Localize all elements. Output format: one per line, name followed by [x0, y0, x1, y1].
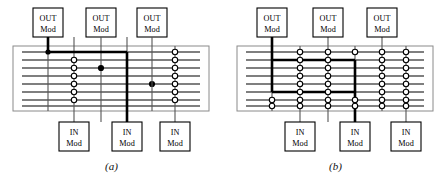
in-module-3[interactable]: IN Mod	[391, 122, 421, 151]
crosspoint-open-c4-r7[interactable]	[352, 97, 357, 102]
crosspoint-open-c5-r4[interactable]	[172, 73, 177, 78]
crosspoint-open-c2-r1[interactable]	[297, 49, 302, 54]
in-module-2[interactable]: IN Mod	[112, 122, 142, 151]
crosspoint-open-c5-r7[interactable]	[379, 97, 384, 102]
crosspoint-open-c6-r6[interactable]	[403, 89, 408, 94]
out-module-3[interactable]: OUT Mod	[367, 8, 397, 37]
out-module-3[interactable]: OUT Mod	[137, 8, 167, 37]
crosspoints-col-5-open	[379, 49, 384, 108]
in-module-3-label-top: IN	[171, 128, 180, 137]
crosspoint-open-c2-r5[interactable]	[297, 81, 302, 86]
crosspoint-open-c5-r2[interactable]	[379, 57, 384, 62]
panel-a-canvas: OUT Mod OUT Mod OUT Mod	[0, 0, 223, 176]
in-module-2[interactable]: IN Mod	[340, 122, 370, 151]
out-module-2[interactable]: OUT Mod	[313, 8, 343, 37]
crosspoint-open-c3-r8[interactable]	[325, 103, 330, 108]
crosspoint-open-c4-r1[interactable]	[352, 49, 357, 54]
in-module-1[interactable]: IN Mod	[59, 122, 89, 151]
crosspoint-open-c5-r8[interactable]	[379, 103, 384, 108]
crosspoint-open-c2-r7[interactable]	[297, 97, 302, 102]
crosspoint-open-c5-r2[interactable]	[172, 57, 177, 62]
in-module-2-label-bottom: Mod	[119, 139, 134, 148]
crosspoint-open-c6-r7[interactable]	[403, 97, 408, 102]
in-module-3-label-top: IN	[402, 128, 411, 137]
out-module-1-label-bottom: Mod	[264, 25, 279, 34]
out-module-1[interactable]: OUT Mod	[257, 8, 287, 37]
crosspoint-open-c5-r3[interactable]	[379, 65, 384, 70]
crosspoint-open-c5-r7[interactable]	[172, 97, 177, 102]
crosspoint-open-c2-r3[interactable]	[71, 65, 76, 70]
crosspoint-open-c2-r4[interactable]	[297, 73, 302, 78]
crosspoint-open-c6-r1[interactable]	[403, 49, 408, 54]
in-module-1-label-top: IN	[296, 128, 305, 137]
in-module-3-label-bottom: Mod	[398, 139, 413, 148]
out-module-1-label-top: OUT	[40, 14, 57, 23]
crosspoint-open-c3-r6[interactable]	[325, 89, 330, 94]
crosspoint-open-c5-r1[interactable]	[172, 49, 177, 54]
crosspoint-open-c3-r2[interactable]	[325, 57, 330, 62]
out-module-1-label-bottom: Mod	[40, 25, 55, 34]
crosspoint-open-c6-r2[interactable]	[403, 57, 408, 62]
crosspoint-open-c5-r4[interactable]	[379, 73, 384, 78]
crosspoints-col-5-open	[172, 49, 177, 102]
crosspoint-open-c2-r2[interactable]	[297, 57, 302, 62]
panel-b-canvas: OUT Mod OUT Mod OUT Mod IN	[224, 0, 447, 176]
out-module-2-label-top: OUT	[320, 14, 337, 23]
crosspoint-open-c6-r4[interactable]	[403, 73, 408, 78]
crosspoint-open-c5-r1[interactable]	[379, 49, 384, 54]
out-module-2-label-bottom: Mod	[320, 25, 335, 34]
active-path-b	[272, 37, 355, 122]
in-modules-a: IN Mod IN Mod IN Mod	[59, 122, 190, 151]
in-module-2-label-top: IN	[351, 128, 360, 137]
out-modules-b: OUT Mod OUT Mod OUT Mod	[257, 8, 397, 37]
crosspoint-open-c2-r4[interactable]	[71, 73, 76, 78]
crosspoint-closed-c3-r3[interactable]	[98, 65, 104, 71]
crosspoint-open-c6-r5[interactable]	[403, 81, 408, 86]
crosspoint-open-c3-r7[interactable]	[325, 97, 330, 102]
crosspoint-open-c2-r3[interactable]	[297, 65, 302, 70]
crosspoint-open-c5-r5[interactable]	[172, 81, 177, 86]
panel-a-caption: (a)	[0, 160, 223, 172]
in-module-2-label-top: IN	[123, 128, 132, 137]
in-module-1[interactable]: IN Mod	[285, 122, 315, 151]
crosspoint-open-c2-r5[interactable]	[71, 81, 76, 86]
crosspoint-open-c2-r6[interactable]	[71, 89, 76, 94]
crosspoint-open-c2-r7[interactable]	[71, 97, 76, 102]
in-module-3[interactable]: IN Mod	[160, 122, 190, 151]
crosspoint-closed-col1-row1[interactable]	[45, 49, 50, 54]
out-module-3-label-bottom: Mod	[374, 25, 389, 34]
crosspoints-col-3-open	[325, 49, 330, 108]
crosspoint-open-c6-r8[interactable]	[403, 103, 408, 108]
crosspoint-open-c5-r6[interactable]	[172, 89, 177, 94]
panel-b-caption: (b)	[224, 160, 447, 172]
panel-a: OUT Mod OUT Mod OUT Mod	[0, 0, 223, 176]
out-module-2-label-bottom: Mod	[93, 25, 108, 34]
crosspoint-open-c1-r7[interactable]	[269, 97, 274, 102]
in-module-1-label-top: IN	[70, 128, 79, 137]
out-module-1[interactable]: OUT Mod	[33, 8, 63, 37]
crosspoints-col-1-open	[269, 97, 274, 108]
in-module-1-label-bottom: Mod	[66, 139, 81, 148]
crosspoint-open-c3-r1[interactable]	[325, 49, 330, 54]
crosspoint-open-c6-r3[interactable]	[403, 65, 408, 70]
crosspoint-open-c2-r8[interactable]	[297, 103, 302, 108]
crosspoint-open-c2-r2[interactable]	[71, 57, 76, 62]
crosspoint-open-c5-r5[interactable]	[379, 81, 384, 86]
in-module-3-label-bottom: Mod	[167, 139, 182, 148]
crosspoint-open-c2-r6[interactable]	[297, 89, 302, 94]
vertical-module-lines	[48, 37, 175, 122]
in-modules-b: IN Mod IN Mod IN Mod	[285, 122, 421, 151]
crosspoint-open-c3-r4[interactable]	[325, 73, 330, 78]
vertical-module-lines	[272, 37, 406, 122]
crosspoint-open-c4-r8[interactable]	[352, 103, 357, 108]
crosspoint-open-c1-r8[interactable]	[269, 103, 274, 108]
figure-crossbar-switch: OUT Mod OUT Mod OUT Mod	[0, 0, 447, 176]
crosspoint-open-c3-r5[interactable]	[325, 81, 330, 86]
out-module-2[interactable]: OUT Mod	[86, 8, 116, 37]
crosspoint-open-c3-r3[interactable]	[325, 65, 330, 70]
out-module-3-label-bottom: Mod	[144, 25, 159, 34]
in-module-2-label-bottom: Mod	[347, 139, 362, 148]
crosspoint-open-c5-r6[interactable]	[379, 89, 384, 94]
crosspoint-open-c5-r3[interactable]	[172, 65, 177, 70]
active-path-a	[48, 37, 127, 122]
